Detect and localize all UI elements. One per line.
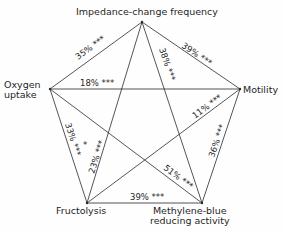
- node-dot-oxygen: [49, 88, 51, 90]
- node-label-motility: Motility: [243, 85, 278, 95]
- inner-label-23: 23% ***: [86, 139, 106, 175]
- node-dot-motility: [239, 88, 241, 90]
- edge-label-oxygen-motility: 18% ***: [80, 78, 114, 88]
- edge-label-impedance-oxygen: 35% ***: [73, 33, 107, 61]
- edge-label-motility-methylene: 36% ***: [206, 123, 227, 159]
- edge-label-impedance-motility: 39% ***: [180, 40, 214, 68]
- node-label-fructolysis: Fructolysis: [56, 206, 106, 216]
- node-dot-impedance: [141, 21, 143, 23]
- node-label-oxygen: Oxygen uptake: [4, 80, 41, 100]
- node-label-methylene: Methylene-blue reducing activity: [150, 206, 230, 226]
- edge-label-motility-fructolysis: 11% ***: [190, 92, 223, 121]
- node-dot-methylene: [201, 202, 203, 204]
- node-label-oxygen-line2: uptake: [4, 90, 41, 100]
- correlation-diagram: 35% *** 39% *** 38% *** 18% *** 33% *** …: [0, 0, 283, 233]
- node-dot-fructolysis: [86, 202, 88, 204]
- node-label-impedance: Impedance-change frequency: [76, 7, 218, 17]
- edge-label-fructolysis-methylene: 39% ***: [130, 192, 164, 202]
- diagram-lines: 35% *** 39% *** 38% *** 18% *** 33% *** …: [0, 0, 283, 233]
- inner-label-asterisk: *: [83, 140, 87, 150]
- node-label-methylene-line2: reducing activity: [150, 216, 230, 226]
